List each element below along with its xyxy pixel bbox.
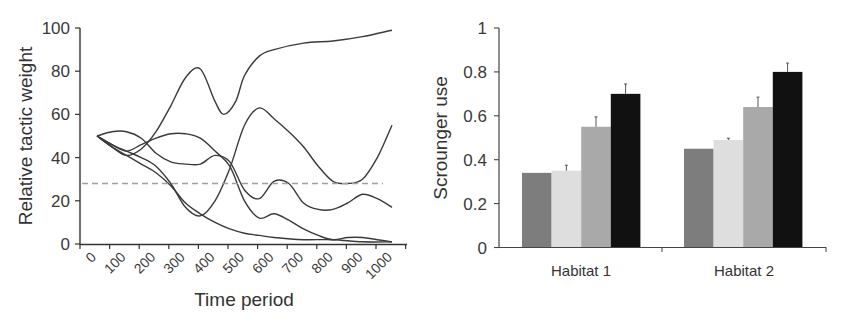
y-tick-label: 80 <box>51 62 70 81</box>
category-label-habitat-2: Habitat 2 <box>714 262 774 279</box>
y-axis-ticks: 020406080100 <box>42 19 80 254</box>
figure: 020406080100 010020030040050060070080090… <box>0 0 850 326</box>
bar-habitat-2-series-3 <box>743 107 773 247</box>
y-tick-label: 40 <box>51 149 70 168</box>
y-tick-label: 0 <box>61 235 70 254</box>
x-tick-label: 600 <box>249 249 277 277</box>
category-label-habitat-1: Habitat 1 <box>551 262 611 279</box>
y-tick-label: 0.6 <box>463 107 487 126</box>
y-axis-title: Scrounger use <box>430 76 451 200</box>
y-tick-label: 60 <box>51 105 70 124</box>
x-tick-label: 1000 <box>362 249 395 282</box>
x-axis-title: Time period <box>194 289 294 310</box>
line-series-group <box>97 30 392 242</box>
y-tick-label: 0 <box>478 239 487 258</box>
y-tick-label: 0.2 <box>463 195 487 214</box>
line-chart: 020406080100 010020030040050060070080090… <box>15 19 407 310</box>
y-tick-label: 100 <box>42 19 70 38</box>
bar-habitat-1-series-3 <box>581 127 611 248</box>
y-tick-label: 0.8 <box>463 63 487 82</box>
y-axis-ticks: 00.20.40.60.81 <box>463 19 499 258</box>
x-tick-label: 800 <box>308 249 336 277</box>
bar-group <box>522 63 802 247</box>
bar-habitat-1-series-1 <box>522 173 552 248</box>
bar-habitat-1-series-4 <box>611 94 641 248</box>
x-tick-label: 100 <box>101 249 129 277</box>
x-axis-ticks: 01002003004005006007008009001000 <box>80 244 406 282</box>
bar-chart: 00.20.40.60.81 Scrounger use Habitat 1 H… <box>430 19 826 279</box>
x-tick-label: 700 <box>278 249 306 277</box>
line-series-1 <box>97 30 392 155</box>
bar-habitat-2-series-4 <box>773 72 803 248</box>
x-tick-label: 400 <box>190 249 218 277</box>
y-tick-label: 0.4 <box>463 151 487 170</box>
x-tick-label: 0 <box>82 249 99 266</box>
x-tick-label: 500 <box>219 249 247 277</box>
x-tick-label: 300 <box>160 249 188 277</box>
x-tick-label: 900 <box>338 249 366 277</box>
x-tick-label: 200 <box>130 249 158 277</box>
y-axis-title: Relative tactic weight <box>15 46 36 225</box>
line-series-3 <box>97 131 392 210</box>
y-tick-label: 20 <box>51 192 70 211</box>
y-tick-label: 1 <box>478 19 487 38</box>
bar-habitat-2-series-1 <box>684 149 714 248</box>
bar-habitat-2-series-2 <box>714 140 744 248</box>
bar-habitat-1-series-2 <box>552 171 582 248</box>
